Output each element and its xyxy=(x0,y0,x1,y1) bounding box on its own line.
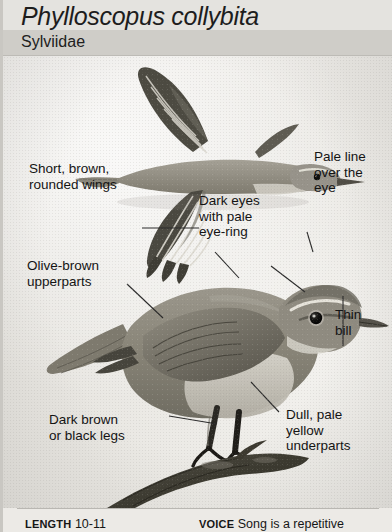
callout-upperparts: Olive-brown upperparts xyxy=(27,258,99,289)
field-guide-page: Phylloscopus collybita Sylviidae xyxy=(0,0,392,532)
callout-eye: Dark eyes with pale eye-ring xyxy=(199,193,260,240)
callout-legs: Dark brown or black legs xyxy=(49,412,125,443)
footer-facts: LENGTH 10-11 VOICE Song is a repetitive xyxy=(3,508,392,532)
voice-fact: VOICE Song is a repetitive xyxy=(199,517,344,531)
voice-value: Song is a repetitive xyxy=(238,517,344,531)
footer-divider xyxy=(17,508,379,509)
callout-bill: Thin bill xyxy=(335,307,361,338)
flying-bird-upper-wing xyxy=(138,67,208,153)
flying-bird-far-wing xyxy=(255,124,299,158)
leader-line-upperparts xyxy=(127,284,163,318)
family-name-band: Sylviidae xyxy=(3,30,392,55)
voice-label: VOICE xyxy=(199,518,234,530)
family-name: Sylviidae xyxy=(21,33,85,51)
species-name-band: Phylloscopus collybita xyxy=(3,0,392,30)
leader-line-supercilium xyxy=(307,232,313,252)
length-label: LENGTH xyxy=(25,518,71,530)
length-fact: LENGTH 10-11 xyxy=(25,517,106,531)
callout-wings: Short, brown, rounded wings xyxy=(29,161,117,192)
length-value: 10-11 xyxy=(75,517,106,531)
leader-line-eye xyxy=(215,252,239,278)
callout-underparts: Dull, pale yellow underparts xyxy=(286,407,351,454)
callout-supercilium: Pale line over the eye xyxy=(314,149,366,196)
species-name: Phylloscopus collybita xyxy=(21,2,259,31)
perched-bird-eye xyxy=(310,312,322,324)
leader-line-eyering xyxy=(271,266,305,292)
